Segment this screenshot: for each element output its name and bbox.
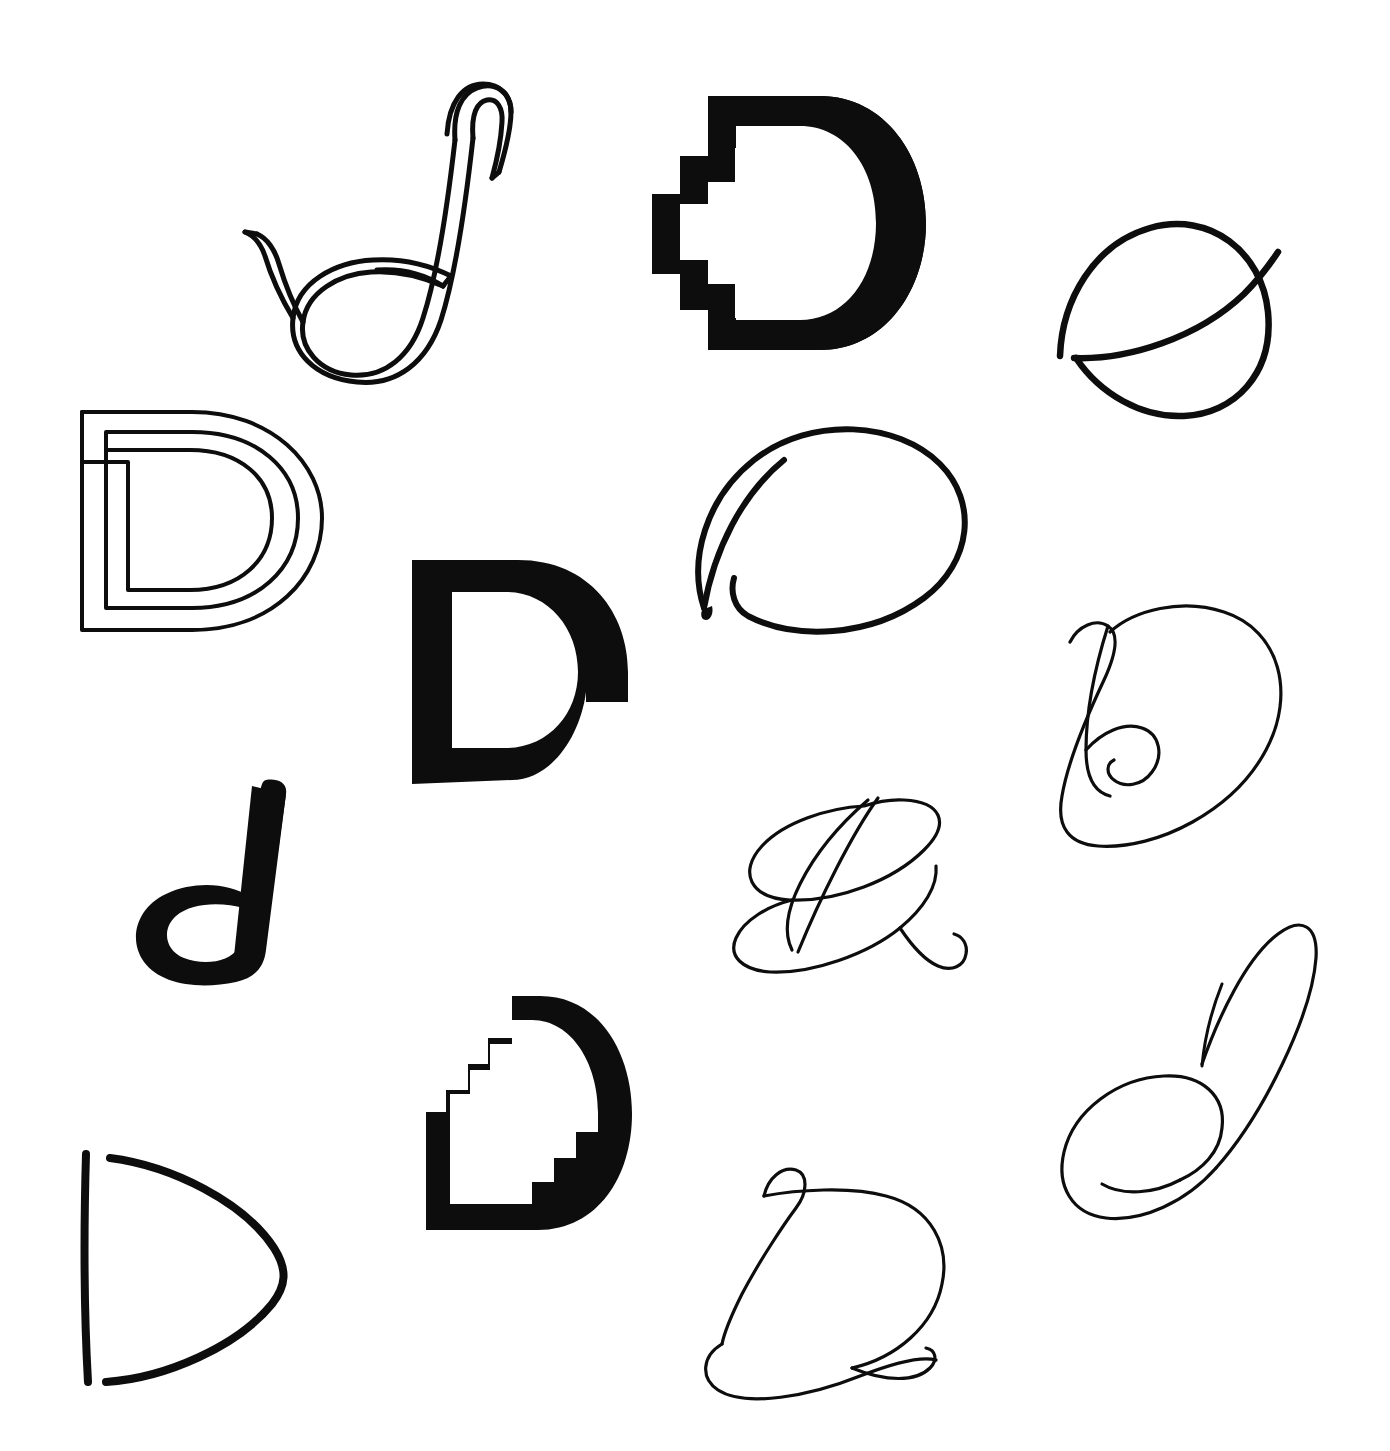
glyph-loop-ascender-d	[1050, 918, 1335, 1228]
glyph-notched-heavy-d	[400, 552, 635, 790]
glyph-spencerian-flourish-d	[728, 788, 976, 988]
glyph-circle-slash-d	[1038, 208, 1320, 420]
glyph-nested-outline-d	[72, 392, 334, 642]
artwork-canvas: Letter D Variations Twelve hand-drawn va…	[0, 0, 1390, 1451]
glyph-brush-bold-lowercase-d	[126, 772, 326, 1022]
glyph-script-loop-base-d	[700, 1142, 970, 1414]
glyph-pointed-bowl-d	[62, 1142, 324, 1400]
glyph-leaf-ellipse-d	[672, 420, 972, 635]
glyph-curl-calligraphic-d	[1048, 600, 1328, 850]
glyph-staircase-counter-d	[420, 992, 636, 1234]
glyph-ribbon-cursive-d	[215, 60, 545, 380]
glyph-pixel-stem-bold-d	[630, 78, 930, 368]
